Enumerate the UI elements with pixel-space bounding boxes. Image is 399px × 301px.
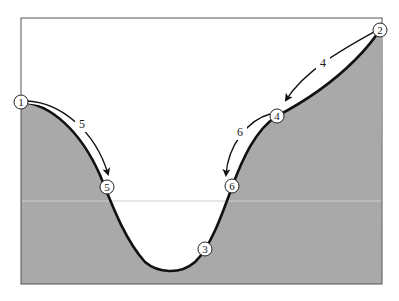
svg-text:5: 5 (104, 181, 110, 193)
node-4: 4 (270, 109, 284, 123)
node-2: 2 (373, 23, 387, 37)
svg-text:1: 1 (18, 96, 24, 108)
node-5: 5 (100, 180, 114, 194)
landscape-diagram: 5 4 6 1 2 3 4 5 6 (0, 0, 399, 301)
node-6: 6 (225, 179, 239, 193)
svg-text:3: 3 (202, 243, 208, 255)
svg-text:2: 2 (377, 24, 383, 36)
node-1: 1 (14, 95, 28, 109)
node-3: 3 (198, 242, 212, 256)
move-label-5: 5 (79, 117, 85, 131)
svg-text:4: 4 (274, 110, 280, 122)
move-label-6: 6 (237, 125, 243, 139)
move-label-4: 4 (320, 56, 326, 70)
svg-text:6: 6 (229, 180, 235, 192)
